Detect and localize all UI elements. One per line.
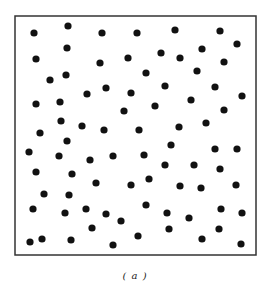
point-dot	[68, 170, 75, 177]
point-dot	[151, 102, 158, 109]
point-dot	[63, 44, 70, 51]
point-dot	[65, 191, 72, 198]
point-dot	[233, 145, 240, 152]
point-dots	[25, 22, 245, 248]
point-dot	[176, 54, 183, 61]
point-dot	[38, 235, 45, 242]
point-dot	[78, 122, 85, 129]
point-dot	[198, 235, 205, 242]
point-dot	[142, 69, 149, 76]
point-dot	[198, 45, 205, 52]
point-dot	[176, 182, 183, 189]
point-dot	[202, 119, 209, 126]
point-dot	[83, 90, 90, 97]
figure-caption: ( a )	[0, 270, 270, 281]
point-dot	[216, 27, 223, 34]
point-dot	[175, 123, 182, 130]
point-dot	[135, 126, 142, 133]
point-dot	[238, 209, 245, 216]
point-dot	[171, 26, 178, 33]
point-dot	[96, 59, 103, 66]
point-dot	[133, 29, 140, 36]
point-dot	[163, 209, 170, 216]
point-dot	[216, 165, 223, 172]
point-dot	[26, 238, 33, 245]
point-dot	[233, 40, 240, 47]
point-dot	[88, 224, 95, 231]
point-dot	[30, 29, 37, 36]
point-dot	[61, 209, 68, 216]
point-dot	[40, 190, 47, 197]
point-dot	[217, 205, 224, 212]
point-dot	[185, 214, 192, 221]
random-point-pattern-figure	[0, 0, 270, 285]
point-dot	[36, 129, 43, 136]
point-dot	[67, 236, 74, 243]
point-dot	[109, 152, 116, 159]
point-dot	[57, 117, 64, 124]
point-dot	[215, 225, 222, 232]
point-dot	[238, 92, 245, 99]
point-dot	[197, 184, 204, 191]
point-dot	[193, 67, 200, 74]
point-dot	[109, 241, 116, 248]
point-dot	[120, 107, 127, 114]
point-dot	[127, 89, 134, 96]
point-dot	[124, 54, 131, 61]
point-dot	[127, 181, 134, 188]
point-dot	[117, 217, 124, 224]
point-dot	[145, 175, 152, 182]
point-dot	[232, 181, 239, 188]
point-dot	[32, 168, 39, 175]
point-dot	[32, 55, 39, 62]
point-dot	[98, 29, 105, 36]
point-dot	[220, 58, 227, 65]
point-dot	[63, 137, 70, 144]
point-dot	[142, 201, 149, 208]
point-dot	[92, 179, 99, 186]
point-dot	[82, 205, 89, 212]
point-dot	[157, 49, 164, 56]
point-dot	[56, 98, 63, 105]
point-dot	[140, 151, 147, 158]
point-dot	[161, 161, 168, 168]
point-dot	[187, 96, 194, 103]
point-dot	[237, 240, 244, 247]
point-dot	[134, 232, 141, 239]
point-dot	[25, 148, 32, 155]
point-dot	[64, 22, 71, 29]
point-dot	[211, 145, 218, 152]
point-dot	[167, 141, 174, 148]
point-dot	[32, 100, 39, 107]
point-dot	[220, 106, 227, 113]
point-dot	[190, 161, 197, 168]
point-dot	[102, 210, 109, 217]
point-dot	[55, 152, 62, 159]
point-dot	[29, 205, 36, 212]
point-dot	[211, 83, 218, 90]
point-dot	[165, 225, 172, 232]
point-dot	[86, 156, 93, 163]
point-dot	[46, 76, 53, 83]
point-dot	[100, 126, 107, 133]
plot-frame	[15, 16, 256, 255]
point-dot	[161, 82, 168, 89]
point-dot	[102, 84, 109, 91]
point-dot	[62, 71, 69, 78]
